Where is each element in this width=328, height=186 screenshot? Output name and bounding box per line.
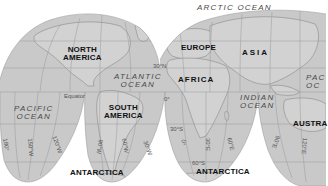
label-pacific-ocean-west: PACIFIC OCEAN bbox=[14, 105, 53, 121]
label-lat-30n: 30°N bbox=[153, 63, 166, 69]
label-south-america: SOUTH AMERICA bbox=[104, 104, 143, 120]
label-lon-30e: 30°E bbox=[205, 138, 211, 151]
label-africa: AFRICA bbox=[178, 76, 214, 84]
label-pacific-ocean-east: PAC OC bbox=[306, 74, 325, 90]
label-north-america-line2: AMERICA bbox=[63, 54, 102, 62]
label-atlantic-ocean: ATLANTIC OCEAN bbox=[114, 73, 162, 89]
label-indian-line2: OCEAN bbox=[240, 102, 274, 110]
label-lon-0-equator: 0° bbox=[164, 96, 170, 102]
label-europe: EUROPE bbox=[181, 44, 216, 52]
label-equator: Equator bbox=[64, 93, 85, 99]
label-north-america: NORTH AMERICA bbox=[63, 46, 102, 62]
label-indian-ocean: INDIAN OCEAN bbox=[240, 94, 274, 110]
label-pacific-line2: OCEAN bbox=[14, 113, 53, 121]
label-arctic-ocean: ARCTIC OCEAN bbox=[197, 4, 272, 12]
label-lat-60s: 60°S bbox=[192, 160, 205, 166]
label-australia: AUSTRA bbox=[293, 120, 328, 128]
label-antarctica-west: ANTARCTICA bbox=[70, 169, 124, 177]
label-atlantic-line2: OCEAN bbox=[114, 81, 162, 89]
label-antarctica-east: ANTARCTICA bbox=[196, 168, 250, 176]
label-asia: ASIA bbox=[242, 49, 269, 57]
label-lon-0: 0° bbox=[180, 139, 187, 146]
label-lat-30s: 30°S bbox=[170, 126, 183, 132]
label-pacific-east-line2: OC bbox=[306, 82, 325, 90]
label-south-america-line2: AMERICA bbox=[104, 112, 143, 120]
